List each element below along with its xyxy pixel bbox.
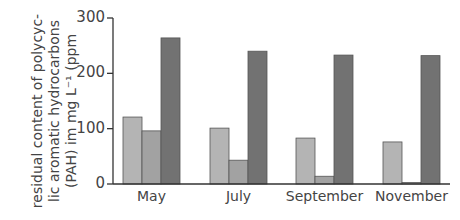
bar <box>123 117 142 184</box>
bar <box>296 138 315 184</box>
bar <box>142 131 161 184</box>
bar <box>248 51 267 184</box>
bar <box>315 176 334 184</box>
bar <box>161 38 180 184</box>
bar <box>383 142 402 184</box>
bar <box>334 55 353 184</box>
bar <box>210 128 229 184</box>
plot-area <box>0 0 460 220</box>
bar <box>229 160 248 184</box>
bar <box>421 56 440 184</box>
bar-chart: residual content of polycyc-lic aromatic… <box>0 0 460 220</box>
